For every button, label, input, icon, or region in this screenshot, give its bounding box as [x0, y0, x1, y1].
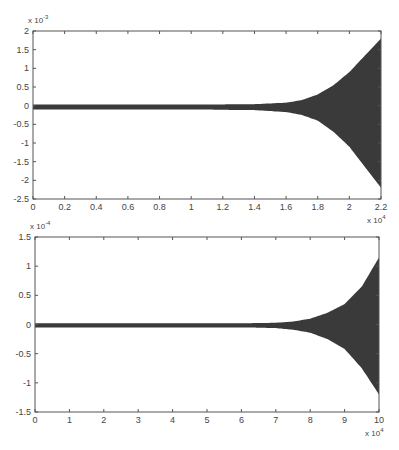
- y-tick-label: -1.5: [13, 157, 29, 167]
- y-tick-label: -1: [21, 138, 29, 148]
- x-tick-label: 0.8: [153, 202, 166, 212]
- y-tick-label: 1: [26, 261, 31, 271]
- x-tick-label: 5: [204, 415, 209, 425]
- x-tick-label: 9: [342, 415, 347, 425]
- x-tick-label: 0.6: [122, 202, 135, 212]
- y-tick-label: -0.5: [15, 349, 31, 359]
- y-tick-label: 0: [26, 320, 31, 330]
- x-tick-label: 0: [32, 415, 37, 425]
- x-tick-label: 3: [136, 415, 141, 425]
- y-tick-label: 1: [24, 63, 29, 73]
- x-tick-label: 0.4: [90, 202, 103, 212]
- y-tick-label: -1.5: [15, 407, 31, 417]
- x-tick-label: 2: [347, 202, 352, 212]
- y-tick-label: -1: [23, 378, 31, 388]
- x-tick-label: 2.2: [375, 202, 388, 212]
- x-tick-label: 1: [189, 202, 194, 212]
- y-multiplier-label: x 10-3: [28, 14, 49, 25]
- signal-envelope-area: [35, 257, 379, 394]
- x-tick-label: 2: [101, 415, 106, 425]
- y-tick-label: 2: [24, 26, 29, 36]
- x-tick-label: 1.2: [217, 202, 230, 212]
- signal-envelope-area: [33, 39, 381, 188]
- x-tick-label: 10: [374, 415, 384, 425]
- top-plot: 00.20.40.60.811.21.41.61.822.221.510.50-…: [13, 14, 387, 225]
- x-multiplier-label: x 104: [367, 214, 386, 225]
- x-tick-label: 1.4: [248, 202, 261, 212]
- x-tick-label: 1.6: [280, 202, 293, 212]
- y-tick-label: 0.5: [18, 290, 31, 300]
- x-tick-label: 8: [308, 415, 313, 425]
- x-tick-label: 6: [239, 415, 244, 425]
- chart-figure: 00.20.40.60.811.21.41.61.822.221.510.50-…: [0, 0, 399, 450]
- x-tick-label: 1.8: [311, 202, 324, 212]
- y-tick-label: 1.5: [16, 45, 29, 55]
- bottom-plot: 0123456789101.510.50-0.5-1-1.5x 10-4x 10…: [15, 220, 384, 438]
- x-tick-label: 4: [170, 415, 175, 425]
- y-tick-label: -2.5: [13, 194, 29, 204]
- x-multiplier-label: x 104: [365, 427, 384, 438]
- y-tick-label: 0.5: [16, 82, 29, 92]
- x-tick-label: 0: [30, 202, 35, 212]
- y-tick-label: -2: [21, 175, 29, 185]
- y-tick-label: 0: [24, 101, 29, 111]
- x-tick-label: 1: [67, 415, 72, 425]
- y-tick-label: 1.5: [18, 232, 31, 242]
- y-multiplier-label: x 10-4: [30, 220, 51, 231]
- x-tick-label: 7: [273, 415, 278, 425]
- y-tick-label: -0.5: [13, 119, 29, 129]
- x-tick-label: 0.2: [58, 202, 71, 212]
